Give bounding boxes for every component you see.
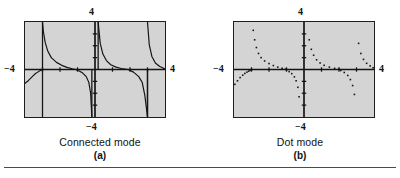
caption-tag-b: (b)	[200, 150, 400, 161]
caption-tag-a: (a)	[0, 150, 200, 161]
axis-label-left-a: −4	[4, 64, 15, 74]
axis-label-right-a: 4	[170, 64, 175, 74]
panel-connected-mode: 4 −4 −4 4 Connected mode (a)	[0, 0, 200, 160]
axis-label-left-b: −4	[213, 64, 224, 74]
horizontal-divider	[4, 167, 396, 168]
calculator-screen-dot	[233, 21, 375, 118]
axis-label-right-b: 4	[379, 64, 384, 74]
panel-dot-mode: 4 −4 −4 4 Dot mode (b)	[200, 0, 400, 160]
figure-root: 4 −4 −4 4 Connected mode (a) 4 −4 −4 4 D…	[0, 0, 400, 178]
caption-mode-b: Dot mode	[200, 136, 400, 148]
caption-mode-a: Connected mode	[0, 136, 200, 148]
axis-label-bottom-b: −4	[295, 122, 306, 132]
axis-label-top-b: 4	[298, 7, 303, 17]
axis-label-bottom-a: −4	[86, 122, 97, 132]
plot-connected-mode	[25, 22, 165, 117]
axis-label-top-a: 4	[89, 7, 94, 17]
plot-dot-mode	[234, 22, 374, 117]
calculator-screen-connected	[24, 21, 166, 118]
